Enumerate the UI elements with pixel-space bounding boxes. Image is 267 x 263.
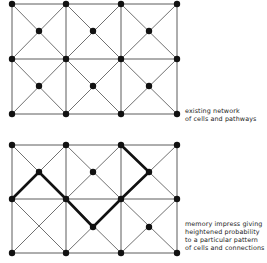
- cell-node: [90, 28, 96, 34]
- cell-node: [118, 142, 124, 148]
- cell-node: [9, 111, 15, 117]
- cell-node: [174, 250, 180, 256]
- cell-node: [9, 196, 15, 202]
- caption-line: to a particular pattern: [185, 236, 265, 244]
- cell-node: [118, 56, 124, 62]
- cell-node: [174, 56, 180, 62]
- cell-node: [63, 196, 69, 202]
- memory-impress-path: [12, 145, 149, 227]
- cell-node: [146, 224, 152, 230]
- cell-node: [174, 111, 180, 117]
- cell-node: [118, 196, 124, 202]
- caption-line: of cells and connections: [185, 244, 265, 252]
- existing-network-diagram: [9, 1, 180, 117]
- cell-node: [90, 169, 96, 175]
- cell-node: [9, 56, 15, 62]
- cell-node: [146, 169, 152, 175]
- cell-node: [36, 83, 42, 89]
- caption-existing-network: existing network of cells and pathways: [185, 107, 257, 123]
- cell-node: [146, 83, 152, 89]
- cell-node: [90, 83, 96, 89]
- cell-node: [63, 250, 69, 256]
- caption-line: heightened probability: [185, 228, 265, 236]
- cell-node: [174, 196, 180, 202]
- cell-node: [90, 224, 96, 230]
- cell-node: [63, 142, 69, 148]
- caption-memory-impress: memory impress giving heightened probabi…: [185, 220, 265, 252]
- cell-node: [174, 1, 180, 7]
- cell-node: [36, 28, 42, 34]
- cell-node: [146, 28, 152, 34]
- memory-impress-diagram: [9, 142, 180, 256]
- cell-node: [118, 111, 124, 117]
- caption-line: of cells and pathways: [185, 115, 257, 123]
- cell-node: [63, 56, 69, 62]
- cell-node: [9, 1, 15, 7]
- cell-node: [63, 1, 69, 7]
- caption-line: memory impress giving: [185, 220, 265, 228]
- cell-node: [9, 142, 15, 148]
- cell-node: [118, 1, 124, 7]
- cell-node: [9, 250, 15, 256]
- cell-node: [36, 169, 42, 175]
- cell-node: [118, 250, 124, 256]
- cell-node: [63, 111, 69, 117]
- cell-node: [174, 142, 180, 148]
- caption-line: existing network: [185, 107, 257, 115]
